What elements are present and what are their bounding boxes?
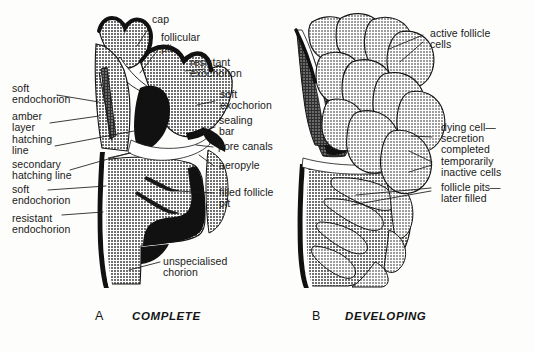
label-resistant-endochorion: resistant endochorion: [12, 213, 70, 235]
figure-root: cap follicular pit resistant exochorion …: [0, 0, 534, 352]
label-cap: cap: [152, 14, 169, 25]
label-aeropyle: aeropyle: [219, 160, 260, 171]
label-unspecialised-chorion: unspecialised chorion: [163, 256, 227, 278]
panel-caption-a: COMPLETE: [132, 310, 201, 322]
label-filled-follicle-pit: filled follicle pit: [219, 187, 273, 209]
label-follicular-pit: follicular pit: [161, 32, 200, 54]
label-temporarily-inactive-cells: temporarily inactive cells: [441, 156, 501, 178]
label-sealing-bar: sealing bar: [219, 115, 253, 137]
label-hatching-line: hatching line: [12, 134, 52, 156]
label-follicle-pits-later-filled: follicle pits— later filled: [441, 182, 501, 204]
panel-letter-a: A: [95, 309, 103, 323]
label-soft-endochorion-lower: soft endochorion: [12, 184, 70, 206]
label-resistant-exochorion: resistant exochorion: [190, 57, 242, 79]
label-active-follicle-cells: active follicle cells: [430, 28, 490, 50]
label-pore-canals: pore canals: [218, 141, 273, 152]
panel-caption-b: DEVELOPING: [345, 310, 426, 322]
label-amber-layer: amber layer: [12, 111, 42, 133]
label-soft-exochorion: soft exochorion: [220, 89, 272, 111]
label-dying-cell-secretion-completed: dying cell— secretion completed: [441, 122, 496, 156]
label-secondary-hatching-line: secondary hatching line: [12, 159, 72, 181]
panel-letter-b: B: [312, 309, 320, 323]
label-soft-endochorion-upper: soft endochorion: [12, 83, 70, 105]
